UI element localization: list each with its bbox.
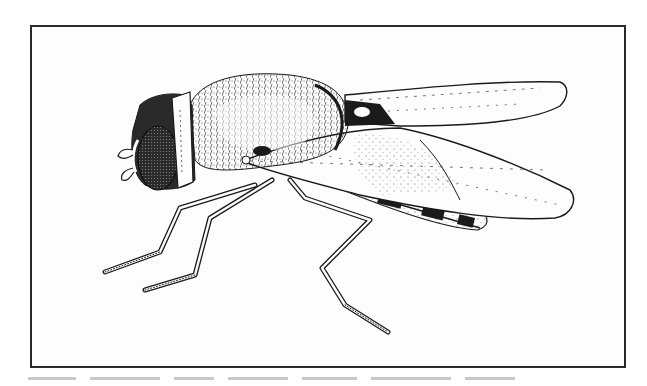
head	[132, 92, 195, 190]
figure-caption-truncated	[28, 377, 628, 386]
legs	[105, 180, 388, 332]
antennae	[118, 149, 134, 180]
fly-illustration	[0, 0, 647, 386]
upper-wing	[345, 82, 567, 126]
compound-eye	[138, 126, 178, 190]
